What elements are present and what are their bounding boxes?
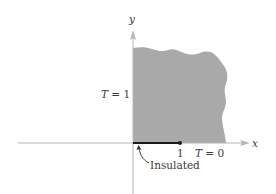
segment-end-dot bbox=[178, 141, 182, 145]
insulated-pointer-arrow bbox=[139, 148, 149, 163]
shaded-region bbox=[133, 47, 227, 143]
y-axis-label: y bbox=[129, 14, 135, 25]
t-equals-0-label: T = 0 bbox=[195, 148, 224, 159]
segment-end-tick-label: 1 bbox=[177, 148, 184, 159]
t-equals-1-label: T = 1 bbox=[101, 89, 130, 100]
insulated-label: Insulated bbox=[150, 160, 200, 171]
heat-conduction-diagram: y x T = 1 1 T = 0 Insulated bbox=[0, 0, 276, 194]
x-axis-label: x bbox=[252, 138, 258, 149]
